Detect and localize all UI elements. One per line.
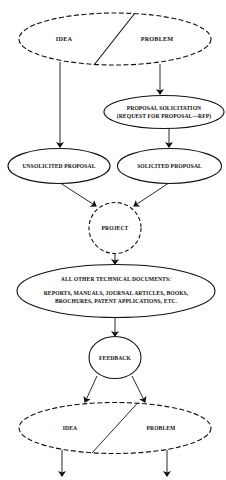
top-divider-slash [94, 13, 135, 65]
unsolicited-proposal-label: UNSOLICITED PROPOSAL [22, 163, 95, 169]
top-problem-label: PROBLEM [141, 35, 174, 42]
project-node: PROJECT [89, 203, 141, 254]
technical-documents-node: ALL OTHER TECHNICAL DOCUMENTS: REPORTS, … [17, 265, 215, 318]
feedback-label: FEEDBACK [99, 355, 131, 361]
bottom-problem-label: PROBLEM [147, 425, 177, 431]
bottom-divider-slash [92, 403, 138, 454]
feedback-node: FEEDBACK [89, 337, 141, 379]
arrow-unsolicited-to-project [61, 184, 96, 207]
solicited-proposal-node: SOLICITED PROPOSAL [118, 149, 222, 184]
solicited-proposal-label: SOLICITED PROPOSAL [137, 163, 202, 169]
technical-documents-title: ALL OTHER TECHNICAL DOCUMENTS: [61, 276, 171, 282]
bottom-idea-problem-node: IDEA PROBLEM [19, 403, 211, 454]
project-label: PROJECT [102, 225, 129, 231]
arrow-feedback-to-problem [132, 376, 145, 402]
unsolicited-proposal-node: UNSOLICITED PROPOSAL [8, 149, 110, 184]
technical-documents-line3: BROCHURES, PATENT APPLICATIONS, ETC. [55, 298, 178, 304]
flowchart-canvas: IDEA PROBLEM PROPOSAL SOLICITATION (REQU… [0, 0, 226, 480]
bottom-idea-label: IDEA [63, 425, 77, 431]
technical-documents-line2: REPORTS, MANUALS, JOURNAL ARTICLES, BOOK… [44, 290, 189, 296]
top-idea-problem-node: IDEA PROBLEM [19, 13, 211, 65]
proposal-solicitation-line1: PROPOSAL SOLICITATION [127, 105, 201, 111]
top-idea-label: IDEA [56, 35, 73, 42]
proposal-solicitation-node: PROPOSAL SOLICITATION (REQUEST FOR PROPO… [104, 96, 224, 129]
proposal-solicitation-line2: (REQUEST FOR PROPOSAL—RFP) [117, 113, 212, 120]
arrow-feedback-to-idea [85, 376, 97, 402]
arrow-solicited-to-project [134, 184, 168, 207]
